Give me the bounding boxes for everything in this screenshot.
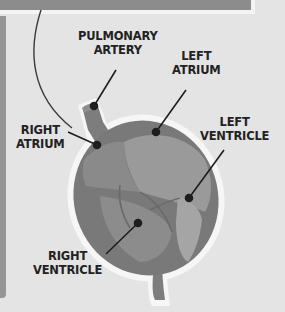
label-line: PULMONARY bbox=[78, 29, 158, 43]
label-line: LEFT bbox=[172, 49, 221, 63]
label-line: ARTERY bbox=[78, 43, 158, 57]
label-line: VENTRICLE bbox=[200, 129, 269, 143]
label-line: ATRIUM bbox=[16, 137, 65, 151]
connector-curve bbox=[34, 10, 72, 128]
label-right-ventricle: RIGHT VENTRICLE bbox=[33, 249, 102, 277]
label-left-ventricle: LEFT VENTRICLE bbox=[200, 115, 269, 143]
label-right-atrium: RIGHT ATRIUM bbox=[16, 123, 65, 151]
label-line: VENTRICLE bbox=[33, 263, 102, 277]
label-left-atrium: LEFT ATRIUM bbox=[172, 49, 221, 77]
label-line: RIGHT bbox=[16, 123, 65, 137]
label-line: ATRIUM bbox=[172, 63, 221, 77]
label-line: RIGHT bbox=[33, 249, 102, 263]
label-pulmonary-artery: PULMONARY ARTERY bbox=[78, 29, 158, 57]
label-line: LEFT bbox=[200, 115, 269, 129]
